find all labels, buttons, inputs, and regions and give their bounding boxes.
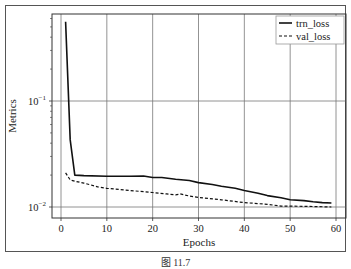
- y-tick-label: 10−2: [28, 200, 46, 213]
- x-tick-label: 30: [193, 223, 204, 234]
- axis-ticks: 010203040506010−110−2: [28, 19, 341, 234]
- figure-caption: 图 11.7: [0, 254, 351, 269]
- y-tick-label: 10−1: [28, 94, 46, 107]
- x-tick-label: 10: [102, 223, 113, 234]
- y-axis-label: Metrics: [6, 99, 18, 133]
- legend: trn_loss val_loss: [276, 16, 344, 44]
- legend-label-val-loss: val_loss: [296, 31, 330, 42]
- plot-area: [52, 14, 346, 218]
- x-tick-label: 60: [331, 223, 342, 234]
- grid-lines: [52, 14, 346, 218]
- legend-label-trn-loss: trn_loss: [296, 18, 329, 29]
- x-tick-label: 0: [58, 223, 63, 234]
- x-tick-label: 40: [239, 223, 250, 234]
- x-tick-label: 20: [147, 223, 158, 234]
- x-axis-label: Epochs: [183, 236, 215, 248]
- x-tick-label: 50: [285, 223, 296, 234]
